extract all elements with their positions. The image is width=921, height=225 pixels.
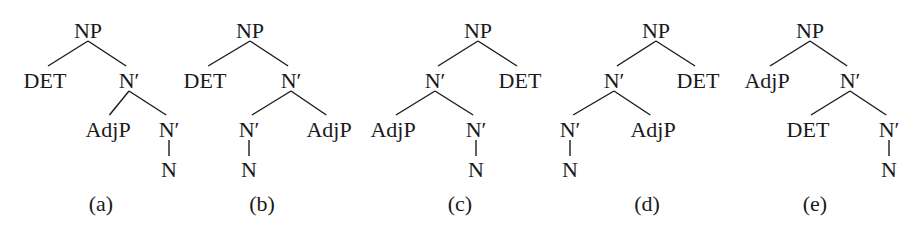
edge-np-nbar1 bbox=[617, 41, 656, 66]
tree-caption: (a) bbox=[89, 191, 113, 216]
edge-nbar1-det bbox=[811, 91, 850, 115]
node-nbar2: N′ bbox=[466, 117, 487, 142]
node-n: N bbox=[161, 157, 177, 182]
edge-nbar1-nbar2 bbox=[252, 91, 291, 115]
tree-a: NPDETN′AdjPN′N(a) bbox=[24, 18, 180, 216]
edge-nbar1-adjp bbox=[614, 91, 650, 115]
node-nbar1: N′ bbox=[840, 68, 861, 93]
node-det: DET bbox=[787, 117, 830, 142]
edge-np-nbar1 bbox=[88, 41, 126, 66]
tree-b: NPDETN′N′AdjPN(b) bbox=[184, 18, 352, 216]
node-np: NP bbox=[642, 18, 670, 43]
node-np: NP bbox=[236, 18, 264, 43]
node-nbar1: N′ bbox=[425, 68, 446, 93]
edge-np-det bbox=[478, 41, 517, 66]
edge-nbar1-nbar2 bbox=[850, 91, 886, 115]
node-adjp: AdjP bbox=[85, 117, 130, 142]
node-nbar1: N′ bbox=[604, 68, 625, 93]
node-n: N bbox=[468, 157, 484, 182]
edge-np-nbar1 bbox=[810, 41, 847, 66]
node-adjp: AdjP bbox=[744, 68, 789, 93]
edge-nbar1-adjp bbox=[291, 91, 326, 115]
edge-np-nbar1 bbox=[438, 41, 478, 66]
tree-c: NPN′DETAdjPN′N(c) bbox=[370, 18, 542, 216]
edge-nbar1-adjp bbox=[396, 91, 435, 115]
node-np: NP bbox=[74, 18, 102, 43]
node-nbar2: N′ bbox=[560, 117, 581, 142]
edge-np-det bbox=[656, 41, 695, 66]
node-det: DET bbox=[184, 68, 227, 93]
tree-e: NPAdjPN′DETN′N(e) bbox=[744, 18, 899, 216]
edge-nbar1-nbar2 bbox=[129, 91, 166, 115]
node-nbar2: N′ bbox=[239, 117, 260, 142]
node-det: DET bbox=[499, 68, 542, 93]
node-n: N bbox=[881, 157, 897, 182]
tree-d: NPN′DETN′AdjPN(d) bbox=[560, 18, 720, 216]
node-nbar1: N′ bbox=[119, 68, 140, 93]
edge-np-adjp bbox=[770, 41, 810, 66]
node-adjp: AdjP bbox=[630, 117, 675, 142]
node-det: DET bbox=[24, 68, 67, 93]
syntax-tree-figure: NPDETN′AdjPN′N(a)NPDETN′N′AdjPN(b)NPN′DE… bbox=[0, 0, 921, 225]
node-nbar1: N′ bbox=[281, 68, 302, 93]
tree-caption: (e) bbox=[803, 191, 827, 216]
node-nbar2: N′ bbox=[159, 117, 180, 142]
edge-np-det bbox=[48, 41, 88, 66]
edge-nbar1-nbar2 bbox=[435, 91, 473, 115]
node-adjp: AdjP bbox=[370, 117, 415, 142]
node-np: NP bbox=[464, 18, 492, 43]
node-n: N bbox=[562, 157, 578, 182]
node-det: DET bbox=[677, 68, 720, 93]
edge-nbar1-nbar2 bbox=[573, 91, 614, 115]
node-adjp: AdjP bbox=[306, 117, 351, 142]
edge-nbar1-adjp bbox=[109, 91, 129, 115]
tree-caption: (c) bbox=[448, 191, 472, 216]
edge-np-nbar1 bbox=[250, 41, 288, 66]
tree-caption: (d) bbox=[634, 191, 660, 216]
node-n: N bbox=[241, 157, 257, 182]
node-np: NP bbox=[796, 18, 824, 43]
edge-np-det bbox=[208, 41, 250, 66]
node-nbar2: N′ bbox=[879, 117, 900, 142]
tree-caption: (b) bbox=[249, 191, 275, 216]
